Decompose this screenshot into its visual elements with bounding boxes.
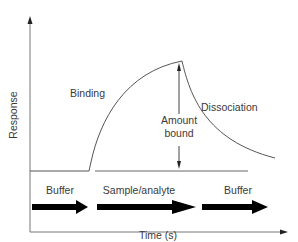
- flow-step-label: Buffer: [224, 184, 252, 196]
- amount-bound-label-line2: bound: [164, 127, 193, 139]
- flow-step-label: Sample/analyte: [103, 184, 176, 196]
- y-axis-label: Response: [7, 91, 19, 138]
- y-axis: [28, 16, 33, 232]
- y-axis-arrow-icon: [28, 16, 33, 24]
- flow-arrow-icon: [202, 200, 268, 214]
- sensorgram-diagram: Response Time (s) Binding Dissociation A…: [0, 0, 298, 242]
- arrow-down-icon: [177, 161, 181, 169]
- amount-bound-label-line1: Amount: [161, 114, 197, 126]
- flow-step-sample: Sample/analyte: [97, 184, 196, 214]
- x-axis-label: Time (s): [139, 229, 177, 241]
- binding-label: Binding: [70, 87, 105, 99]
- flow-step-buffer-2: Buffer: [202, 184, 268, 214]
- flow-arrow-icon: [97, 200, 196, 214]
- flow-arrow-icon: [32, 200, 88, 214]
- arrow-up-icon: [177, 63, 181, 71]
- sensorgram-curve: [30, 61, 275, 171]
- flow-step-buffer-1: Buffer: [32, 184, 88, 214]
- x-axis-arrow-icon: [280, 230, 288, 235]
- dissociation-label: Dissociation: [201, 101, 258, 113]
- flow-step-label: Buffer: [46, 184, 74, 196]
